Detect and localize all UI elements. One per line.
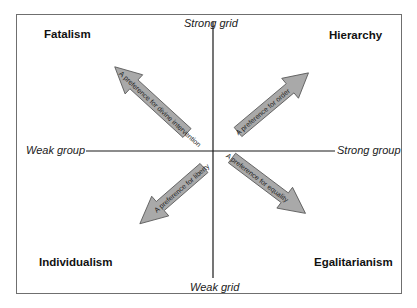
arrow-fatalism: A preference for divine intervention [106,57,209,155]
quadrant-label-fatalism: Fatalism [44,28,91,40]
arrow-text-fatalism: A preference for divine intervention [117,70,202,149]
arrow-text-egalitarianism: A preference for equality [224,152,290,204]
arrow-text-hierarchy: A preference for order [235,87,293,137]
arrow-individualism: A preference for liberty [131,154,217,233]
axis-label-strong-grid: Strong grid [184,17,238,29]
axis-label-weak-grid: Weak grid [190,281,239,293]
quadrant-label-hierarchy: Hierarchy [329,29,382,41]
arrow-text-individualism: A preference for liberty [153,162,212,215]
arrow-egalitarianism: A preference for equality [219,144,313,224]
axis-label-weak-group: Weak group [26,144,85,156]
quadrant-label-individualism: Individualism [39,256,113,268]
axis-label-strong-group: Strong group [337,144,401,156]
arrow-hierarchy: A preference for order [228,63,317,143]
quadrant-label-egalitarianism: Egalitarianism [314,256,393,268]
